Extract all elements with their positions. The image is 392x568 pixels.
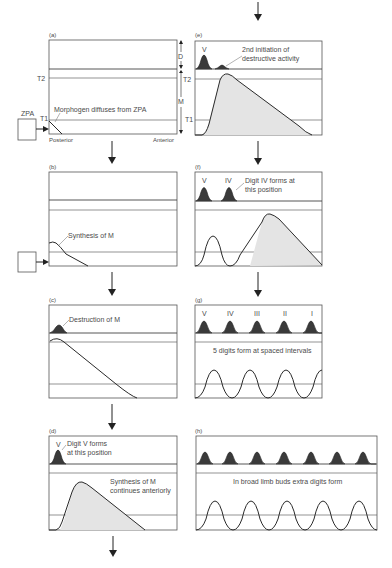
panel-f-annotation-line2: this position [245,186,282,194]
digit-v-peak [50,450,66,464]
anterior-label: Anterior [153,137,174,143]
arrow-f-to-g [254,272,262,297]
arrow-a-to-b [108,141,116,164]
zpa-arrow-icon [43,259,49,265]
digit-label: IV [227,310,234,317]
digit-label: III [254,310,260,317]
limb-patterning-diagram: (a) T2 T1 Morphogen diffuses from ZPA Po… [0,0,392,568]
panel-h-annotation: In broad limb buds extra digits form [233,478,342,486]
panel-d-label: (d) [49,428,56,434]
digit-v-peak [196,188,212,202]
zpa-box [18,252,36,272]
panel-b: (b) Synthesis of M [18,164,177,272]
m-label: M [178,98,184,105]
panel-f: (f) V IV Digit IV forms at this position [195,164,322,266]
arrow-into-e [254,2,262,21]
digit-label: V [202,310,207,317]
digit-label: I [311,310,313,317]
digit-v-label: V [202,177,207,184]
annotation-leader [55,113,60,122]
morphogen-gradient [49,121,62,134]
panel-c-label: (c) [49,297,56,303]
arrow-b-to-c [108,272,116,296]
panel-d-annotation2-line2: continues anteriorly [110,487,171,495]
zpa-label: ZPA [21,110,34,117]
d-m-scale: D M [178,40,184,134]
digit-peaks [197,452,376,464]
panel-b-label: (b) [49,164,56,170]
digit-peaks [196,321,322,333]
panel-d-annotation2-line1: Synthesis of M [110,478,156,486]
m-concentration-curve [50,339,137,398]
digit-v-label: V [202,46,207,53]
panel-a-label: (a) [49,32,56,38]
panel-g-label: (g) [195,297,202,303]
digit-label: II [283,310,287,317]
panel-f-label: (f) [195,164,201,170]
zpa-source-b [18,252,49,272]
panel-a: (a) T2 T1 Morphogen diffuses from ZPA Po… [18,32,184,143]
m-synthesis-curve [49,242,88,266]
arrow-e-to-f [254,141,262,165]
zpa-arrow-icon [43,126,49,132]
zpa-box [18,119,36,140]
arrow-c-to-d [108,404,116,430]
panel-e-annotation-line2: destructive activity [242,55,300,63]
panel-c: (c) Destruction of M [49,297,177,398]
panel-h: (h) In broad limb buds extra digits form [195,428,377,530]
panel-g-annotation: 5 digits form at spaced intervals [213,347,312,355]
posterior-label: Posterior [49,137,73,143]
panel-e-annotation-line1: 2nd initiation of [242,46,289,53]
destruction-peak [50,325,67,333]
digit-v-peak [196,55,212,69]
t2-label: T2 [183,76,191,83]
panel-g: (g) V IV III II I 5 digits form at space… [195,297,322,398]
d-label: D [178,53,183,60]
t1-label: T1 [40,115,48,122]
digit-v-label: V [56,441,61,448]
panel-b-annotation: Synthesis of M [68,232,114,240]
m-oscillation-curve [196,501,377,530]
panel-d: (d) V Digit V forms at this position Syn… [49,428,177,530]
digit-iv-label: IV [225,177,232,184]
arrow-d-out [109,536,117,557]
t1-label: T1 [185,116,193,123]
panel-h-label: (h) [195,428,202,434]
panel-f-annotation-line1: Digit IV forms at [245,177,295,185]
panel-e: (e) V T2 T1 2nd initiation of destructiv… [183,32,322,135]
t2-label: T2 [37,75,45,82]
panel-d-annotation-line1: Digit V forms [67,440,108,448]
panel-d-annotation-line2: at this position [67,449,112,457]
panel-a-annotation: Morphogen diffuses from ZPA [54,106,147,114]
panel-c-annotation: Destruction of M [69,316,120,323]
panel-e-label: (e) [195,32,202,38]
digit-iv-peak [221,188,237,202]
